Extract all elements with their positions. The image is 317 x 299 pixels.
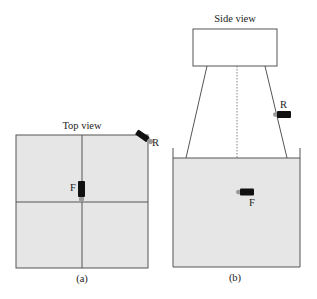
camera-rear-label-a: R [152,137,159,148]
panel-a-top-view: Top view F R (a) [16,120,159,285]
panel-b-side-view: Side view R F (b) [173,13,300,284]
panel-b-caption: (b) [229,272,242,284]
overhead-camera-box [193,29,277,66]
water-volume [173,158,300,267]
figure-canvas: Top view F R (a) Side view [0,0,317,299]
camera-front-label-b: F [249,197,255,208]
camera-front-icon [78,181,85,202]
camera-front-label-a: F [70,182,76,193]
panel-a-caption: (a) [76,273,88,285]
fov-left-line [186,66,207,158]
panel-b-title: Side view [214,13,256,24]
camera-rear-label-b: R [280,99,287,110]
panel-a-title: Top view [62,120,102,131]
